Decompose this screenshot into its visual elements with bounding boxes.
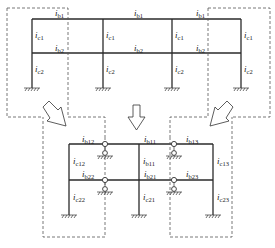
label-ib13: ib13	[186, 134, 198, 145]
down-right-arrow-icon	[43, 101, 66, 126]
label-ib11-col: ib11	[143, 156, 155, 167]
label-ib2-right: ib2	[196, 43, 205, 54]
label-ib23: ib23	[186, 169, 198, 180]
label-ic2-col2: ic2	[106, 64, 115, 75]
fixed-support-icon	[205, 215, 221, 218]
label-ic2-col1: ic2	[35, 64, 44, 75]
fixed-support-icon	[24, 88, 40, 91]
label-ib12: ib12	[82, 134, 94, 145]
label-ic1-col2: ic1	[106, 30, 115, 41]
fixed-support-icon	[164, 88, 180, 91]
label-ib21: ib21	[144, 169, 156, 180]
fixed-support-icon	[233, 88, 249, 91]
right-subframe-region-bottom	[170, 117, 232, 237]
label-ib1-left: ib1	[55, 8, 64, 19]
label-ib1-mid: ib1	[134, 8, 143, 19]
label-ib1-right: ib1	[196, 8, 205, 19]
fixed-support-icon	[95, 88, 111, 91]
fixed-support-icon	[131, 215, 147, 218]
label-ic1-col1: ic1	[35, 30, 44, 41]
label-ic22: ic22	[73, 192, 85, 203]
label-ib2-left: ib2	[55, 43, 64, 54]
label-ic13: ic13	[217, 156, 229, 167]
label-ic2-col4: ic2	[244, 64, 253, 75]
label-ic1-col3: ic1	[175, 30, 184, 41]
label-ic23: ic23	[217, 192, 229, 203]
down-left-arrow-icon	[210, 101, 233, 126]
bottom-frame: ib12 ib11 ib13 ib22 ib21 ib23 ic12 ib11 …	[43, 117, 232, 237]
label-ic21: ic21	[143, 192, 155, 203]
label-ic12: ic12	[73, 156, 85, 167]
label-ib22: ib22	[82, 169, 94, 180]
label-ic1-col4: ic1	[244, 30, 253, 41]
label-ib11: ib11	[144, 134, 156, 145]
top-frame: ib1 ib1 ib1 ib2 ib2 ib2 ic1 ic1 ic1 ic1 …	[24, 8, 253, 91]
down-arrow-icon	[128, 105, 145, 130]
label-ic2-col3: ic2	[175, 64, 184, 75]
fixed-support-icon	[61, 215, 77, 218]
label-ib2-mid: ib2	[134, 43, 143, 54]
frame-decomposition-diagram: ib1 ib1 ib1 ib2 ib2 ib2 ic1 ic1 ic1 ic1 …	[0, 0, 275, 248]
left-subframe-region-bottom	[43, 117, 105, 237]
